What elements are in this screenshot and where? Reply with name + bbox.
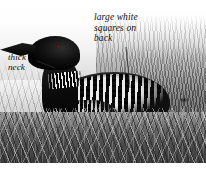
plate-bottom-margin [0, 163, 206, 172]
loon-head [28, 36, 80, 70]
loon-photograph: large white squares on back thick neck [0, 0, 206, 164]
foreground-grass-blades [0, 108, 206, 164]
annotation-thick-neck: thick neck [8, 52, 26, 72]
annotation-large-white-squares-on-back: large white squares on back [94, 12, 138, 44]
loon-field-guide-figure: large white squares on back thick neck [0, 0, 206, 172]
